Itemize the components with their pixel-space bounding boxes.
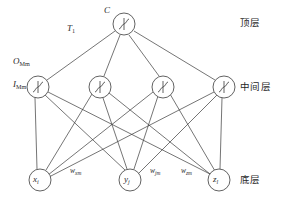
node-circle — [119, 169, 141, 191]
node-bot-2[interactable] — [119, 169, 141, 191]
node-bot-3[interactable] — [208, 169, 230, 191]
threshold-annotation-T1: T1 — [67, 24, 75, 33]
node-mid-3[interactable] — [152, 76, 174, 98]
weight-label-w-xm: wxm — [70, 167, 81, 175]
top-node-annotation-C: C — [104, 6, 110, 15]
edge-top1-mid3 — [129, 35, 159, 76]
edges-middle-to-bottom — [35, 92, 222, 177]
diagram-canvas: xi yj zl C T1 OMm IMm wxm wjm wzm 顶层 中间层… — [0, 0, 282, 198]
weight-label-w-jm: wjm — [150, 167, 160, 175]
edge-top1-mid2 — [104, 35, 120, 76]
layer-label-middle: 中间层 — [240, 82, 271, 92]
weight-label-w-zm: wzm — [181, 167, 192, 175]
input-annotation-I-Mm: IMm — [13, 80, 26, 89]
node-top-1[interactable] — [113, 13, 135, 35]
network-graph — [0, 0, 282, 198]
edge-top1-mid1 — [47, 31, 115, 80]
layer-label-bottom: 底层 — [240, 175, 261, 185]
node-mid-4[interactable] — [213, 76, 235, 98]
node-label-z: zl — [213, 175, 218, 184]
edge-top1-mid4 — [134, 31, 215, 80]
edge-mid2-bot3 — [109, 93, 210, 174]
node-label-y: yj — [124, 175, 130, 184]
node-mid-1[interactable] — [27, 76, 49, 98]
node-label-x: xi — [33, 175, 39, 184]
edge-mid3-bot1 — [48, 92, 153, 175]
edge-mid1-bot3 — [48, 92, 210, 174]
layer-label-top: 顶层 — [240, 18, 261, 28]
edge-mid2-bot2 — [103, 98, 127, 169]
edges-top-to-middle — [47, 31, 215, 80]
node-circle — [208, 169, 230, 191]
output-annotation-O-Mm: OMm — [13, 57, 30, 66]
edge-mid4-bot3 — [220, 98, 222, 169]
node-mid-2[interactable] — [89, 76, 111, 98]
edge-mid1-bot1 — [35, 98, 37, 169]
edge-mid3-bot3 — [170, 94, 215, 171]
